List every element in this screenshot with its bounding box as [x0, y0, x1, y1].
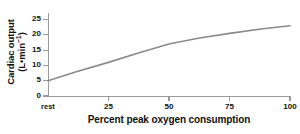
y-tick-mark [43, 34, 48, 35]
x-tick-label: 100 [270, 102, 300, 111]
y-tick-label: 5 [15, 76, 41, 84]
x-tick-mark [168, 96, 169, 101]
x-tick-mark [229, 96, 230, 101]
cardiac-output-line [48, 26, 290, 81]
y-tick-mark [43, 50, 48, 51]
y-tick-label: 0 [15, 92, 41, 100]
cardiac-output-chart: Cardiac output (L•min−1) 0510152025 rest… [0, 0, 300, 134]
y-tick-label: 25 [15, 15, 41, 23]
x-tick-label: 50 [149, 102, 189, 111]
x-tick-label: 75 [210, 102, 250, 111]
x-tick-mark [108, 96, 109, 101]
x-axis-title: Percent peak oxygen consumption [38, 114, 300, 125]
y-tick-label: 15 [15, 46, 41, 54]
y-tick-label: 20 [15, 30, 41, 38]
y-tick-label: 10 [15, 61, 41, 69]
y-tick-mark [43, 65, 48, 66]
y-axis-line [48, 13, 49, 97]
y-tick-mark [43, 80, 48, 81]
y-tick-mark [43, 95, 48, 96]
x-tick-mark [289, 96, 290, 101]
y-tick-mark [43, 19, 48, 20]
x-tick-label: 25 [89, 102, 129, 111]
x-tick-label: rest [28, 102, 68, 111]
